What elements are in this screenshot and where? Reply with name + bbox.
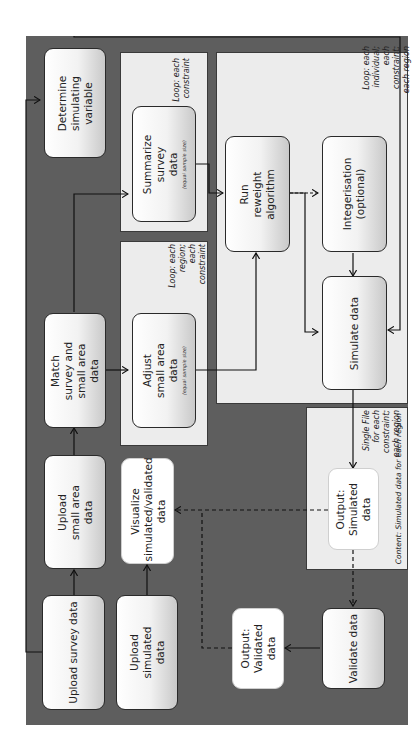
- adjust-label: Adjust small area data: [141, 343, 179, 398]
- visualize-label: Visualize simulated/validated data: [128, 461, 167, 561]
- output-validated-box: Output: Validated data: [232, 608, 284, 689]
- loop-constraint-note: Loop: each constraint: [172, 58, 192, 104]
- upload-small-area-label: Upload small area data: [56, 482, 95, 542]
- adjust-small-area-box: Adjust small area data (equal sample siz…: [132, 313, 196, 428]
- upload-simulated-box: Upload simulated data: [116, 595, 178, 710]
- output-validated-label: Output: Validated data: [239, 624, 278, 674]
- output-simulated-label: Output: Simulated data: [334, 482, 373, 535]
- determine-simulating-variable-box: Determine simulating variable: [44, 48, 106, 158]
- loop-individual-note: Loop: each individual; each constraint; …: [362, 46, 412, 108]
- upload-survey-label: Upload survey data: [67, 601, 80, 703]
- loop-region-constraint-note: Loop: each region; each constraint: [168, 244, 208, 290]
- simulate-label: Simulate data: [348, 296, 361, 369]
- upload-survey-box: Upload survey data: [42, 595, 105, 710]
- visualize-box: Visualize simulated/validated data: [121, 458, 174, 564]
- upload-simulated-label: Upload simulated data: [128, 623, 167, 683]
- integerisation-box: Integerisation (optional): [322, 136, 387, 252]
- run-reweight-box: Run reweight algorithm: [225, 136, 290, 252]
- output-simulated-box: Output: Simulated data: [328, 468, 379, 550]
- upload-small-area-box: Upload small area data: [44, 455, 106, 569]
- match-survey-box: Match survey and small area data: [44, 313, 106, 428]
- summarize-survey-box: Summarize survey data (equal sample size…: [132, 106, 196, 222]
- determine-label: Determine simulating variable: [56, 73, 95, 133]
- reweight-label: Run reweight algorithm: [238, 163, 277, 226]
- integerisation-label: Integerisation (optional): [342, 158, 368, 231]
- summarize-sublabel: (equal sample size): [180, 133, 188, 195]
- validate-label: Validate data: [347, 614, 360, 683]
- adjust-sublabel: (equal sample size): [180, 340, 188, 402]
- validate-data-box: Validate data: [322, 608, 385, 689]
- summarize-label: Summarize survey data: [141, 134, 179, 193]
- match-label: Match survey and small area data: [49, 341, 101, 401]
- content-note: Content: Simulated data for each region: [394, 413, 404, 568]
- simulate-data-box: Simulate data: [322, 276, 387, 390]
